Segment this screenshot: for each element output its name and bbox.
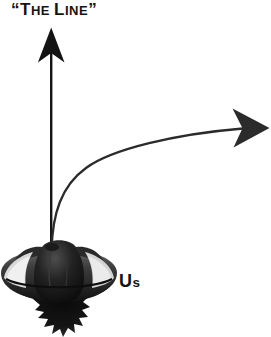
figure-canvas: “THE LINE” Us [0,0,271,337]
the-line-close-quote: ” [88,0,97,19]
us-label-cap: U [119,271,133,291]
saucer-exhaust-plume [33,297,90,337]
the-line-open-quote: “ [11,0,20,19]
curved-arrow-shaft [52,129,244,251]
curving-right-arrow [52,109,270,251]
us-label-rest: s [133,275,141,290]
saucer-top-nub [45,243,59,251]
us-label: Us [119,272,141,290]
flying-saucer [1,240,117,337]
the-line-word1-rest: HE [31,3,50,18]
straight-arrow-shaft [50,45,52,251]
the-line-label: “THE LINE” [11,1,97,18]
the-line-word2-rest: INE [65,3,88,18]
the-line-word1-cap: T [20,0,31,19]
straight-up-arrow [38,28,65,252]
saucer-dome [34,241,84,303]
the-line-word2-cap: L [54,0,65,19]
